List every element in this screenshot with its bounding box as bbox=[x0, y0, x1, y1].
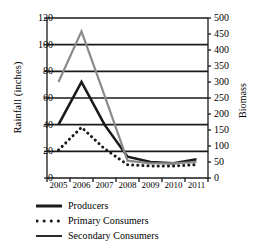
dotted-line-icon bbox=[36, 214, 62, 228]
solid-line-icon bbox=[36, 229, 62, 243]
chart-container: Rainfall (inches) Biomass 02040608010012… bbox=[0, 0, 268, 248]
chart-legend: Producers Primary Consumers Secondary Co… bbox=[36, 198, 246, 243]
legend-label-secondary-consumers: Secondary Consumers bbox=[68, 230, 159, 241]
thick-solid-line-icon bbox=[36, 199, 62, 213]
legend-label-primary-consumers: Primary Consumers bbox=[68, 215, 149, 226]
gridlines bbox=[47, 18, 208, 151]
legend-label-producers: Producers bbox=[68, 200, 108, 211]
legend-item-primary-consumers: Primary Consumers bbox=[36, 213, 246, 228]
legend-item-secondary-consumers: Secondary Consumers bbox=[36, 228, 246, 243]
legend-item-producers: Producers bbox=[36, 198, 246, 213]
